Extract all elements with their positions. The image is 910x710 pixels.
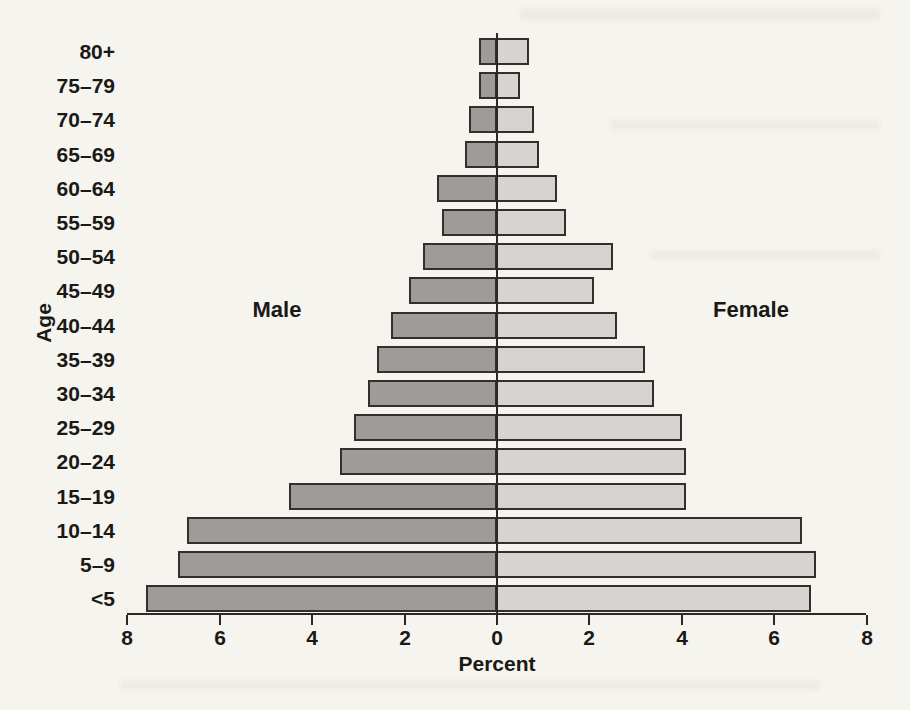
female-bar bbox=[496, 243, 613, 270]
x-axis-tick-label: 2 bbox=[385, 627, 425, 649]
male-bar bbox=[354, 414, 497, 441]
y-axis-title: Age bbox=[33, 300, 55, 346]
female-bar bbox=[496, 141, 539, 168]
population-pyramid-chart: 80+75–7970–7465–6960–6455–5950–5445–4940… bbox=[0, 0, 910, 710]
male-bar bbox=[409, 277, 497, 304]
male-bar bbox=[391, 312, 497, 339]
age-tick-label: 65–69 bbox=[25, 141, 115, 168]
female-bar bbox=[496, 585, 811, 612]
zero-axis-line bbox=[496, 33, 498, 613]
x-axis-tick-label: 8 bbox=[107, 627, 147, 649]
male-bar bbox=[368, 380, 497, 407]
x-axis-tick-label: 8 bbox=[847, 627, 887, 649]
female-side-label: Female bbox=[691, 299, 811, 321]
age-tick-label: 15–19 bbox=[25, 483, 115, 510]
female-bar bbox=[496, 209, 566, 236]
x-axis-tick-label: 2 bbox=[569, 627, 609, 649]
female-bar bbox=[496, 380, 654, 407]
male-bar bbox=[289, 483, 497, 510]
x-axis-tick-label: 6 bbox=[200, 627, 240, 649]
x-axis-tick-label: 4 bbox=[662, 627, 702, 649]
x-axis-tick-label: 6 bbox=[754, 627, 794, 649]
male-bar bbox=[479, 72, 497, 99]
age-tick-label: 75–79 bbox=[25, 72, 115, 99]
male-bar bbox=[469, 106, 497, 133]
female-bar bbox=[496, 106, 534, 133]
age-tick-label: 20–24 bbox=[25, 448, 115, 475]
age-tick-label: 80+ bbox=[25, 38, 115, 65]
male-bar bbox=[178, 551, 497, 578]
age-tick-label: 10–14 bbox=[25, 517, 115, 544]
age-tick-label: 30–34 bbox=[25, 380, 115, 407]
female-bar bbox=[496, 414, 682, 441]
x-axis-tick-label: 4 bbox=[292, 627, 332, 649]
female-bar bbox=[496, 551, 816, 578]
x-axis-tick bbox=[219, 615, 221, 625]
x-axis-tick-label: 0 bbox=[477, 627, 517, 649]
x-axis-tick bbox=[126, 615, 128, 625]
age-tick-label: <5 bbox=[25, 585, 115, 612]
x-axis-tick bbox=[866, 615, 868, 625]
age-tick-label: 55–59 bbox=[25, 209, 115, 236]
x-axis-tick bbox=[773, 615, 775, 625]
x-axis-tick bbox=[588, 615, 590, 625]
female-bar bbox=[496, 483, 686, 510]
female-bar bbox=[496, 312, 617, 339]
x-axis-title: Percent bbox=[427, 653, 567, 675]
female-bar bbox=[496, 277, 594, 304]
x-axis-tick bbox=[311, 615, 313, 625]
age-tick-label: 25–29 bbox=[25, 414, 115, 441]
male-side-label: Male bbox=[217, 299, 337, 321]
male-bar bbox=[479, 38, 497, 65]
age-tick-label: 35–39 bbox=[25, 346, 115, 373]
female-bar bbox=[496, 517, 802, 544]
female-bar bbox=[496, 38, 529, 65]
male-bar bbox=[442, 209, 497, 236]
female-bar bbox=[496, 346, 645, 373]
male-bar bbox=[423, 243, 497, 270]
male-bar bbox=[340, 448, 497, 475]
age-tick-label: 5–9 bbox=[25, 551, 115, 578]
male-bar bbox=[437, 175, 497, 202]
male-bar bbox=[465, 141, 497, 168]
scanned-page: 80+75–7970–7465–6960–6455–5950–5445–4940… bbox=[0, 0, 910, 710]
x-axis-tick bbox=[681, 615, 683, 625]
age-tick-label: 70–74 bbox=[25, 106, 115, 133]
female-bar bbox=[496, 72, 520, 99]
x-axis-tick bbox=[496, 615, 498, 625]
age-tick-label: 50–54 bbox=[25, 243, 115, 270]
male-bar bbox=[146, 585, 497, 612]
age-tick-label: 60–64 bbox=[25, 175, 115, 202]
male-bar bbox=[377, 346, 497, 373]
x-axis-tick bbox=[404, 615, 406, 625]
female-bar bbox=[496, 175, 557, 202]
female-bar bbox=[496, 448, 686, 475]
male-bar bbox=[187, 517, 497, 544]
